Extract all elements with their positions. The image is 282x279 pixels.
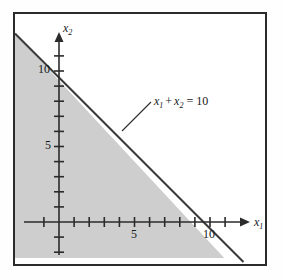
y-axis-label-subscript: 2: [68, 28, 72, 37]
y-tick-label-10: 10: [38, 63, 50, 75]
annotation-leader-line: [122, 102, 151, 131]
equation-value: 10: [196, 94, 208, 108]
equation-plus: +: [165, 94, 172, 108]
x-axis-label: x1: [254, 216, 263, 231]
x-axis-arrowhead: [240, 218, 250, 227]
equation-sub-b: 2: [179, 101, 183, 110]
plot-svg: [0, 0, 282, 279]
equation-equals: =: [186, 94, 193, 108]
equation-sub-a: 1: [159, 101, 163, 110]
y-axis-label: x2: [63, 22, 72, 37]
x-tick-label-5: 5: [131, 228, 137, 240]
x-tick-label-10: 10: [203, 228, 215, 240]
y-tick-label-5: 5: [45, 139, 51, 151]
constraint-equation-label: x1+x2=10: [154, 95, 208, 110]
x-axis-label-subscript: 1: [259, 222, 263, 231]
figure-canvas: x2 x1 10 5 5 10 x1+x2=10: [0, 0, 282, 279]
